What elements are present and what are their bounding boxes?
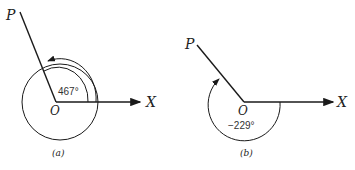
ray-op-b [197,45,244,102]
diagram-a: P O X 467° (a) [5,7,157,158]
label-p-a: P [5,7,16,23]
label-x-a: X [145,94,157,110]
label-x-b: X [336,94,348,110]
caption-b: (b) [240,148,253,158]
angle-label-a: 467° [58,86,79,97]
label-o-a: O [50,104,60,118]
ray-op-a [20,12,56,102]
angle-diagrams: P O X 467° (a) P O X −229° (b) [0,0,355,170]
diagram-b: P O X −229° (b) [184,36,348,158]
label-o-b: O [238,104,248,118]
label-p-b: P [184,36,195,52]
caption-a: (a) [52,148,65,158]
angle-label-b: −229° [228,120,255,131]
diagram-canvas: P O X 467° (a) P O X −229° (b) [0,0,355,170]
